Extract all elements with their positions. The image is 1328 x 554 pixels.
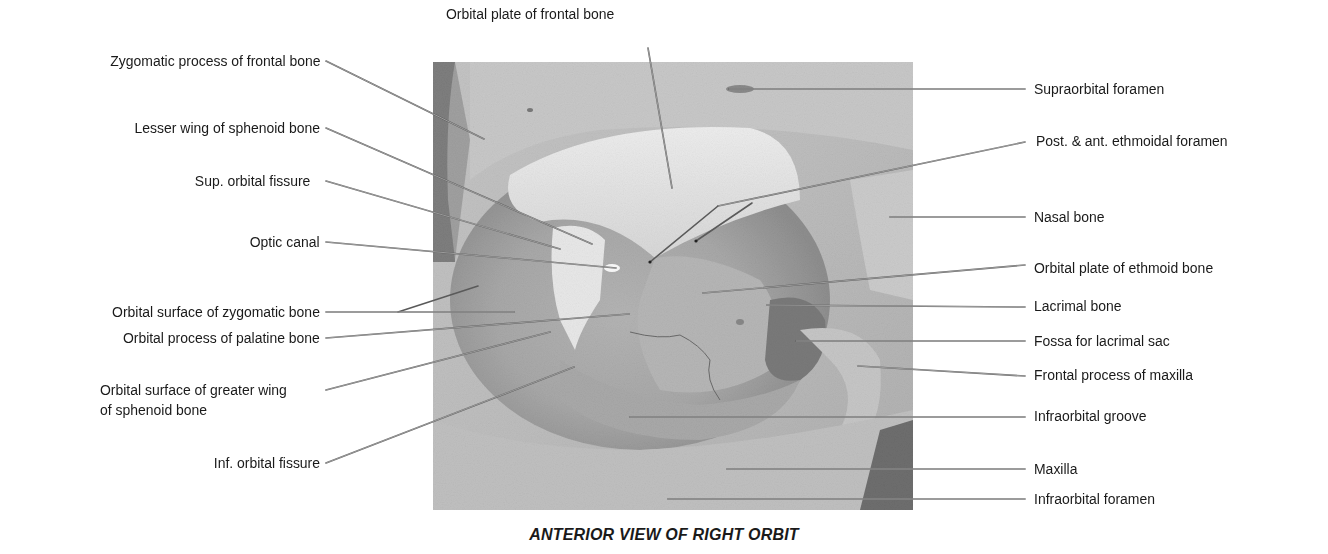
label-orbital-plate-ethmoid: Orbital plate of ethmoid bone [1034, 259, 1213, 277]
label-orbital-plate-frontal-bone: Orbital plate of frontal bone [446, 5, 614, 23]
label-sup-orbital-fissure: Sup. orbital fissure [194, 172, 310, 190]
anatomy-figure: Orbital plate of frontal bone Zygomatic … [0, 0, 1328, 554]
label-infraorbital-groove: Infraorbital groove [1034, 407, 1146, 425]
label-supraorbital-foramen: Supraorbital foramen [1034, 80, 1164, 98]
label-inf-orbital-fissure: Inf. orbital fissure [214, 454, 320, 472]
label-optic-canal: Optic canal [250, 233, 320, 251]
label-zygomatic-process-frontal-bone: Zygomatic process of frontal bone [110, 52, 320, 70]
label-greater-wing-sphenoid-line1: Orbital surface of greater wing [100, 381, 287, 399]
label-nasal-bone: Nasal bone [1034, 208, 1105, 226]
label-ethmoidal-foramen: Post. & ant. ethmoidal foramen [1036, 132, 1228, 150]
label-fossa-lacrimal-sac: Fossa for lacrimal sac [1034, 332, 1170, 350]
label-infraorbital-foramen: Infraorbital foramen [1034, 490, 1155, 508]
figure-caption: ANTERIOR VIEW OF RIGHT ORBIT [0, 526, 1328, 544]
label-frontal-process-maxilla: Frontal process of maxilla [1034, 366, 1193, 384]
label-orbital-process-palatine: Orbital process of palatine bone [123, 329, 320, 347]
label-maxilla: Maxilla [1034, 460, 1077, 478]
label-lacrimal-bone: Lacrimal bone [1034, 297, 1122, 315]
label-orbital-surface-zygomatic: Orbital surface of zygomatic bone [112, 303, 320, 321]
label-lesser-wing-sphenoid: Lesser wing of sphenoid bone [135, 119, 320, 137]
label-greater-wing-sphenoid-line2: of sphenoid bone [100, 401, 207, 419]
